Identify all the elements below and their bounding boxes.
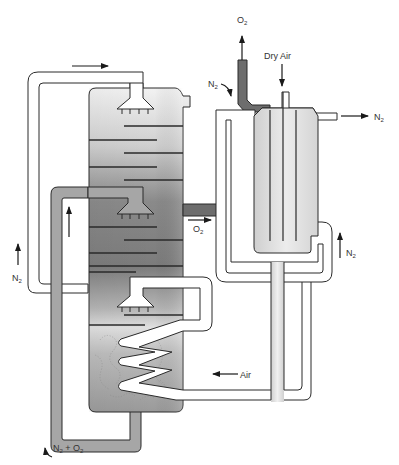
label-o2-top: O2 xyxy=(237,15,248,26)
n2-o2-curved-arrow xyxy=(45,448,52,457)
process-diagram: O2 Dry Air N2 N2 O2 N2 N2 Air N2 + O2 xyxy=(0,0,399,465)
label-air: Air xyxy=(240,370,251,380)
label-n2-left: N2 xyxy=(12,273,23,284)
label-n2-right: N2 xyxy=(346,248,357,259)
label-o2-side: O2 xyxy=(193,224,204,235)
label-dry-air: Dry Air xyxy=(264,51,291,61)
n2-curved-arrow xyxy=(221,84,231,96)
label-n2-exchanger: N2 xyxy=(208,79,219,90)
label-n2-out: N2 xyxy=(374,112,385,123)
heat-exchanger xyxy=(216,64,368,402)
label-n2-o2: N2 + O2 xyxy=(53,443,84,454)
